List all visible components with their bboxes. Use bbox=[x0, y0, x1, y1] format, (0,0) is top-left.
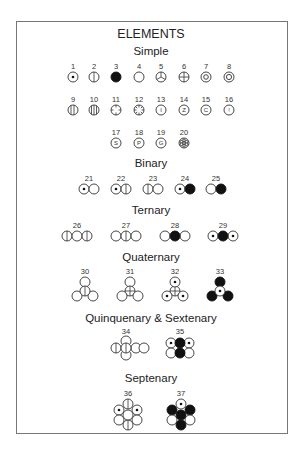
compound-number: 34 bbox=[106, 328, 146, 336]
ternary-symbol-icon bbox=[110, 230, 142, 242]
dot-circle-icon bbox=[67, 71, 79, 83]
binary-symbol-icon bbox=[110, 183, 132, 195]
binary-symbol-icon bbox=[142, 183, 164, 195]
binary-symbol-icon bbox=[174, 183, 196, 195]
vertical-line-circle-icon bbox=[88, 71, 100, 83]
element-number: 7 bbox=[198, 63, 214, 71]
compound-24: 24 bbox=[172, 175, 198, 195]
svg-text:Z: Z bbox=[182, 107, 186, 113]
element-5: 5 bbox=[153, 63, 169, 83]
compound-number: 32 bbox=[160, 268, 190, 276]
striped-circle-icon bbox=[88, 104, 100, 116]
element-number: 9 bbox=[65, 96, 81, 104]
letter-circle-icon: P bbox=[133, 137, 145, 149]
element-number: 8 bbox=[221, 63, 237, 71]
compound-34: 34 bbox=[106, 328, 146, 360]
element-16: 16 ! bbox=[221, 96, 237, 116]
compound-number: 29 bbox=[206, 222, 240, 230]
compound-27: 27 bbox=[109, 222, 143, 242]
compound-22: 22 bbox=[108, 175, 134, 195]
svg-text:S: S bbox=[114, 140, 118, 146]
element-10: 10 bbox=[86, 96, 102, 116]
diagram-title: ELEMENTS bbox=[0, 27, 302, 41]
spoked-circle-icon bbox=[155, 71, 167, 83]
section-simple: Simple bbox=[0, 45, 302, 57]
compound-29: 29 bbox=[206, 222, 240, 242]
compound-32: 32 bbox=[160, 268, 190, 302]
element-13: 13 I bbox=[153, 96, 169, 116]
section-ternary: Ternary bbox=[0, 204, 302, 216]
compound-number: 33 bbox=[205, 268, 235, 276]
letter-circle-icon: G bbox=[155, 137, 167, 149]
compound-number: 22 bbox=[108, 175, 134, 183]
element-1: 1 bbox=[65, 63, 81, 83]
element-4: 4 bbox=[131, 63, 147, 83]
compound-35: 35 bbox=[162, 328, 198, 360]
element-14: 14 Z bbox=[176, 96, 192, 116]
element-number: 10 bbox=[86, 96, 102, 104]
compound-number: 26 bbox=[60, 222, 94, 230]
element-6: 6 bbox=[176, 63, 192, 83]
compound-number: 31 bbox=[115, 268, 145, 276]
compound-36: 36 bbox=[110, 390, 146, 432]
section-septenary: Septenary bbox=[0, 372, 302, 384]
compound-number: 23 bbox=[140, 175, 166, 183]
septenary-symbol-icon bbox=[113, 398, 143, 432]
ternary-symbol-icon bbox=[159, 230, 191, 242]
binary-symbol-icon bbox=[205, 183, 227, 195]
element-number: 4 bbox=[131, 63, 147, 71]
element-number: 6 bbox=[176, 63, 192, 71]
compound-number: 28 bbox=[158, 222, 192, 230]
element-12: 12 bbox=[131, 96, 147, 116]
quaternary-symbol-icon bbox=[161, 276, 189, 302]
element-number: 20 bbox=[176, 129, 192, 137]
compound-number: 37 bbox=[163, 390, 199, 398]
compound-number: 30 bbox=[70, 268, 100, 276]
element-17: 17 S bbox=[108, 129, 124, 149]
filled-circle-icon bbox=[110, 71, 122, 83]
element-2: 2 bbox=[86, 63, 102, 83]
ticked-circle-icon bbox=[110, 104, 122, 116]
element-number: 13 bbox=[153, 96, 169, 104]
septenary-symbol-icon bbox=[166, 398, 196, 432]
compound-26: 26 bbox=[60, 222, 94, 242]
element-19: 19 G bbox=[153, 129, 169, 149]
element-7: 7 bbox=[198, 63, 214, 83]
ring-circle-icon bbox=[200, 71, 212, 83]
compound-number: 24 bbox=[172, 175, 198, 183]
compound-number: 25 bbox=[203, 175, 229, 183]
empty-circle-icon bbox=[133, 71, 145, 83]
star-ticked-circle-icon bbox=[133, 104, 145, 116]
element-number: 17 bbox=[108, 129, 124, 137]
letter-circle-icon: S bbox=[110, 137, 122, 149]
compound-30: 30 bbox=[70, 268, 100, 302]
compound-21: 21 bbox=[76, 175, 102, 195]
quaternary-symbol-icon bbox=[71, 276, 99, 302]
ring-circle-icon bbox=[223, 71, 235, 83]
section-quaternary: Quaternary bbox=[0, 251, 302, 263]
compound-25: 25 bbox=[203, 175, 229, 195]
flower-circle-icon bbox=[178, 137, 190, 149]
element-number: 2 bbox=[86, 63, 102, 71]
element-number: 19 bbox=[153, 129, 169, 137]
element-8: 8 bbox=[221, 63, 237, 83]
svg-text:G: G bbox=[159, 140, 164, 146]
element-20: 20 bbox=[176, 129, 192, 149]
compound-23: 23 bbox=[140, 175, 166, 195]
compound-37: 37 bbox=[163, 390, 199, 432]
element-18: 18 P bbox=[131, 129, 147, 149]
section-binary: Binary bbox=[0, 157, 302, 169]
element-number: 18 bbox=[131, 129, 147, 137]
letter-circle-icon: C bbox=[200, 104, 212, 116]
element-number: 16 bbox=[221, 96, 237, 104]
ternary-symbol-icon bbox=[61, 230, 93, 242]
compound-number: 36 bbox=[110, 390, 146, 398]
element-15: 15 C bbox=[198, 96, 214, 116]
element-3: 3 bbox=[108, 63, 124, 83]
binary-symbol-icon bbox=[78, 183, 100, 195]
cross-circle-icon bbox=[178, 71, 190, 83]
quinquenary-symbol-icon bbox=[107, 336, 145, 360]
letter-circle-icon: I bbox=[155, 104, 167, 116]
element-number: 12 bbox=[131, 96, 147, 104]
element-11: 11 bbox=[108, 96, 124, 116]
